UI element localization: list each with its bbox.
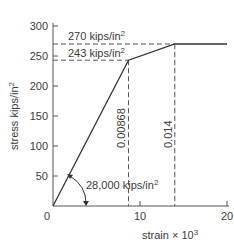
slope-arc: [70, 176, 86, 203]
slope-arc-arrowhead-bottom: [83, 201, 89, 206]
x-tick-label-10: 10: [134, 210, 146, 222]
y-tick-label-300: 300: [30, 20, 48, 32]
ref-label-0.014: 0.014: [162, 120, 174, 148]
ref-label-270: 270 kips/in2: [68, 29, 126, 42]
y-tick-label-50: 50: [36, 170, 48, 182]
y-tick-label-250: 250: [30, 50, 48, 62]
y-axis-title: stress kips/in2: [7, 81, 20, 150]
y-tick-label-100: 100: [30, 140, 48, 152]
y-tick-label-150: 150: [30, 110, 48, 122]
x-tick-label-20: 20: [221, 210, 233, 222]
ref-label-243: 243 kips/in2: [68, 46, 126, 59]
slope-annotation: 28,000 kips/in2: [86, 178, 159, 191]
stress-strain-chart: 50100150200250300 01020 270 kips/in2 243…: [0, 0, 234, 246]
ref-label-0.00868: 0.00868: [115, 108, 127, 148]
x-axis-title: strain × 103: [142, 228, 199, 241]
x-tick-label-0: 0: [44, 210, 50, 222]
y-tick-label-200: 200: [30, 80, 48, 92]
